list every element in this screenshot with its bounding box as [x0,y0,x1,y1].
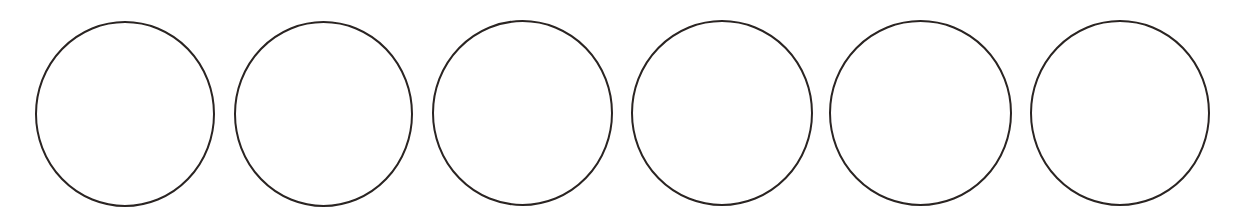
circle-4 [632,21,812,205]
circles-diagram [0,0,1238,224]
circle-row [36,21,1209,206]
circle-1 [36,22,214,206]
circle-2 [235,22,412,206]
circle-6 [1031,21,1209,205]
circle-5 [830,21,1011,205]
circle-3 [433,21,612,205]
